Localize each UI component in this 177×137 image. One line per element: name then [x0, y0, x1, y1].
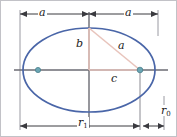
left-focus-point — [35, 67, 40, 72]
label-r1: r1 — [77, 117, 89, 128]
label-a-left: a — [38, 7, 47, 18]
label-c-focal: c — [110, 73, 118, 84]
right-focus-point — [137, 67, 143, 73]
triangle-hypotenuse-a — [89, 28, 140, 70]
label-r1-subscript: 1 — [83, 122, 87, 130]
dimension-r0 — [143, 123, 164, 129]
dimension-a-left — [20, 11, 89, 17]
label-r0: r0 — [160, 105, 172, 116]
label-b-semi-minor: b — [75, 38, 84, 49]
label-r0-subscript: 0 — [166, 110, 170, 118]
label-a-hypotenuse: a — [117, 40, 126, 51]
ellipse-geometry-figure: a a b a c r1 r0 — [0, 0, 177, 137]
label-a-right: a — [124, 7, 133, 18]
